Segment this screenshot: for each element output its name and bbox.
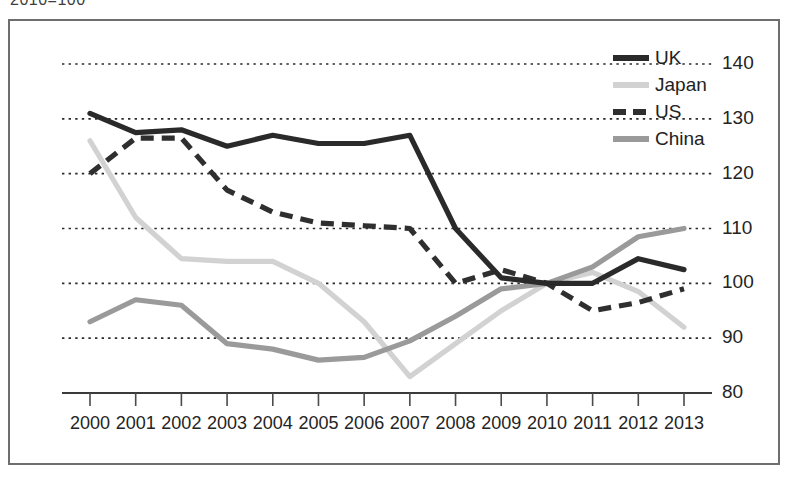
- legend-swatch-icon-us: [613, 109, 649, 115]
- legend-label: US: [655, 101, 681, 123]
- legend-item-us[interactable]: US: [613, 98, 713, 125]
- y-tick-label-140: 140: [722, 52, 768, 74]
- legend-item-china[interactable]: China: [613, 125, 713, 152]
- legend-item-uk[interactable]: UK: [613, 44, 713, 71]
- legend-swatch-icon-japan: [613, 82, 649, 88]
- legend-item-japan[interactable]: Japan: [613, 71, 713, 98]
- y-tick-label-120: 120: [722, 162, 768, 184]
- y-tick-label-130: 130: [722, 107, 768, 129]
- chart-legend: UKJapanUSChina: [613, 44, 713, 152]
- y-tick-label-90: 90: [722, 326, 768, 348]
- legend-label: UK: [655, 47, 681, 69]
- x-tick-label-2013: 2013: [657, 413, 711, 434]
- legend-swatch-icon-china: [613, 136, 649, 142]
- y-tick-label-110: 110: [722, 217, 768, 239]
- chart-page: 2010=100 8090100110120130140 20002001200…: [0, 0, 789, 488]
- legend-label: China: [655, 128, 705, 150]
- y-tick-label-100: 100: [722, 271, 768, 293]
- legend-swatch-icon-uk: [613, 55, 649, 61]
- legend-label: Japan: [655, 74, 707, 96]
- y-tick-label-80: 80: [722, 381, 768, 403]
- chart-caption: 2010=100: [10, 0, 86, 9]
